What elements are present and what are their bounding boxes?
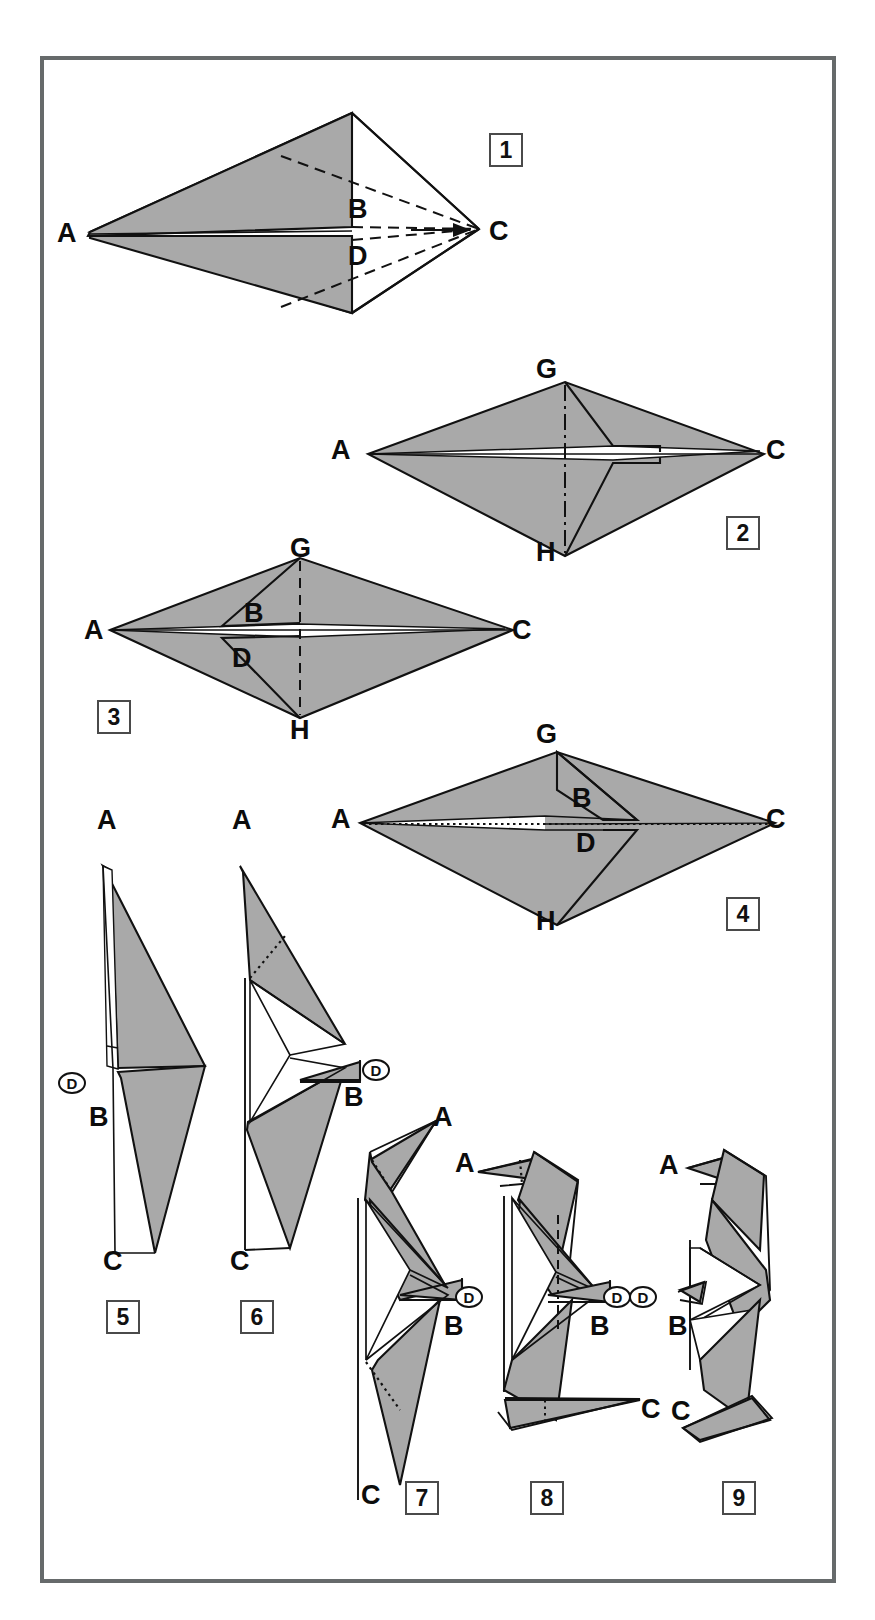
step-number-4: 4 xyxy=(726,897,760,931)
step7-label-b: B xyxy=(444,1313,464,1340)
step3-label-a: A xyxy=(84,617,104,644)
step7-circled-label-d: D xyxy=(455,1286,483,1308)
step2-label-a: A xyxy=(331,437,351,464)
step1-label-c: C xyxy=(489,218,509,245)
step-number-2: 2 xyxy=(726,516,760,550)
step-3-figure xyxy=(110,558,513,718)
step9-label-a: A xyxy=(659,1152,679,1179)
step2-label-h: H xyxy=(536,539,556,566)
step4-label-h: H xyxy=(536,908,556,935)
step4-label-g: G xyxy=(536,721,557,748)
step-6-figure xyxy=(240,866,360,1250)
step1-grey-upper xyxy=(88,113,352,236)
step6-label-b: B xyxy=(344,1084,364,1111)
step4-label-b: B xyxy=(572,785,592,812)
step3-label-c: C xyxy=(512,617,532,644)
step-number-6: 6 xyxy=(240,1300,274,1334)
step6-c-edge xyxy=(245,1248,290,1250)
step-9-figure xyxy=(678,1150,772,1442)
step-1-figure xyxy=(88,113,479,313)
step-2-figure xyxy=(368,382,764,556)
step8-circled-label-d: D xyxy=(603,1286,631,1308)
step6-label-c: C xyxy=(230,1248,250,1275)
step-number-9: 9 xyxy=(722,1481,756,1515)
step1-label-a: A xyxy=(57,220,77,247)
step5-label-b: B xyxy=(89,1104,109,1131)
step9-label-b: B xyxy=(668,1313,688,1340)
step-4-figure xyxy=(360,752,775,925)
step5-label-c: C xyxy=(103,1248,123,1275)
step9-label-c: C xyxy=(671,1398,691,1425)
step2-label-g: G xyxy=(536,356,557,383)
step6-label-a: A xyxy=(232,807,252,834)
step6-circled-label-d: D xyxy=(362,1059,390,1081)
origami-illustration-canvas xyxy=(0,0,875,1620)
step8-label-c: C xyxy=(641,1396,661,1423)
step8-label-a: A xyxy=(455,1150,475,1177)
step9-circled-label-d: D xyxy=(629,1286,657,1308)
step-number-7: 7 xyxy=(405,1481,439,1515)
step2-label-c: C xyxy=(766,437,786,464)
step5-body-lower xyxy=(118,1066,205,1253)
step-number-5: 5 xyxy=(106,1300,140,1334)
step7-label-c: C xyxy=(361,1482,381,1509)
step3-body xyxy=(110,558,513,718)
step4-label-c: C xyxy=(766,806,786,833)
step1-label-d: D xyxy=(348,243,368,270)
step4-label-d: D xyxy=(576,830,596,857)
step5-body-upper xyxy=(103,866,205,1068)
step8-label-b: B xyxy=(590,1313,610,1340)
step-number-1: 1 xyxy=(489,133,523,167)
step3-label-h: H xyxy=(290,717,310,744)
step3-label-g: G xyxy=(290,535,311,562)
step5-circled-label-d: D xyxy=(58,1072,86,1094)
step5-label-a: A xyxy=(97,807,117,834)
step1-label-b: B xyxy=(348,196,368,223)
step1-grey-lower xyxy=(90,236,352,313)
step7-label-a: A xyxy=(433,1104,453,1131)
diagram-page: 1 2 3 4 5 6 7 8 9 A B C D G A C H G A B … xyxy=(0,0,875,1620)
step3-label-b: B xyxy=(244,600,264,627)
step-number-8: 8 xyxy=(530,1481,564,1515)
step3-label-d: D xyxy=(232,645,252,672)
step-number-3: 3 xyxy=(97,700,131,734)
step4-label-a: A xyxy=(331,806,351,833)
step-5-figure xyxy=(103,866,205,1253)
